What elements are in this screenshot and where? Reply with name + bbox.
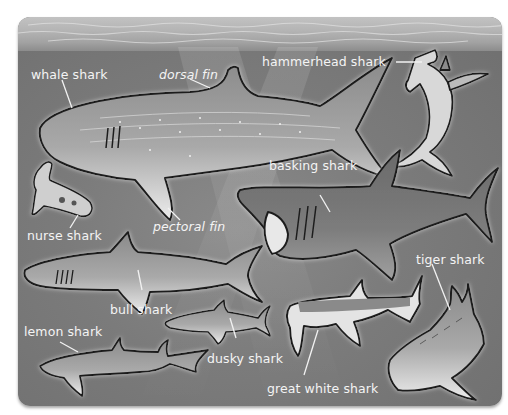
lemon-shark-figure bbox=[40, 338, 208, 396]
label-dorsal-fin: dorsal fin bbox=[159, 67, 218, 82]
label-bull-shark: bull shark bbox=[110, 302, 172, 317]
great-white-shark-figure bbox=[287, 276, 422, 356]
label-tiger-shark: tiger shark bbox=[416, 252, 485, 267]
label-lemon-shark: lemon shark bbox=[24, 324, 102, 339]
label-nurse-shark: nurse shark bbox=[27, 228, 102, 243]
ocean-panel: whale shark dorsal fin hammerhead shark … bbox=[18, 17, 502, 406]
label-whale-shark: whale shark bbox=[31, 67, 108, 82]
dusky-shark-figure bbox=[165, 300, 270, 344]
hammerhead-shark-figure bbox=[392, 50, 488, 176]
label-basking-shark: basking shark bbox=[269, 158, 357, 173]
label-dusky-shark: dusky shark bbox=[207, 351, 283, 366]
label-great-white-shark: great white shark bbox=[267, 381, 378, 396]
label-hammerhead-shark: hammerhead shark bbox=[262, 54, 386, 69]
label-pectoral-fin: pectoral fin bbox=[153, 219, 225, 234]
